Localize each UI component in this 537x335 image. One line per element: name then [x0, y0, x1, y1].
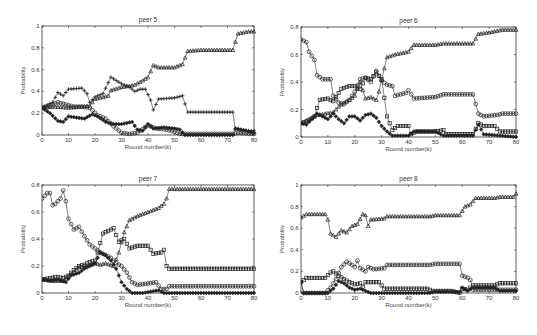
x-tick-label: 60 [459, 139, 466, 145]
x-tick-label: 30 [378, 139, 385, 145]
x-tick-label: 80 [251, 295, 258, 301]
x-tick-label: 20 [351, 295, 358, 301]
y-tick-label: 0.2 [290, 268, 299, 274]
x-tick-label: 50 [432, 139, 439, 145]
y-axis-label: Probability [279, 225, 285, 253]
x-tick-label: 10 [65, 137, 72, 143]
y-tick-label: 0.6 [31, 209, 40, 215]
x-tick-label: 80 [513, 139, 520, 145]
y-tick-label: 0.8 [290, 24, 299, 30]
x-tick-label: 10 [325, 295, 332, 301]
axes-box [301, 185, 516, 293]
y-tick-label: 1 [295, 182, 299, 188]
subplot-title: peer 5 [139, 16, 158, 24]
x-tick-label: 20 [351, 139, 358, 145]
figure: 0102030405060708000.20.40.60.81peer 5Rou… [0, 0, 537, 335]
x-tick-label: 60 [198, 295, 205, 301]
y-tick-label: 0.2 [31, 110, 40, 116]
y-axis-label: Probability [279, 68, 285, 96]
x-axis-label: Round number(k) [385, 146, 432, 152]
y-axis-label: Probability [20, 66, 26, 94]
y-tick-label: 0.6 [290, 52, 299, 58]
subplot-title: peer 6 [399, 17, 418, 25]
x-tick-label: 30 [118, 295, 125, 301]
x-tick-label: 70 [224, 137, 231, 143]
x-tick-label: 60 [198, 137, 205, 143]
y-axis-label: Probability [20, 225, 26, 253]
x-tick-label: 80 [513, 295, 520, 301]
x-tick-label: 0 [40, 295, 44, 301]
y-tick-label: 0.8 [31, 182, 40, 188]
subplot-peer-7: 0102030405060708000.20.40.60.8peer 7Roun… [20, 175, 258, 308]
x-tick-label: 40 [405, 139, 412, 145]
x-tick-label: 30 [118, 137, 125, 143]
subplot-peer-6: 0102030405060708000.20.40.60.8peer 6Roun… [279, 17, 520, 152]
x-tick-label: 0 [299, 139, 303, 145]
y-tick-label: 0.2 [31, 263, 40, 269]
x-tick-label: 70 [224, 295, 231, 301]
x-tick-label: 0 [299, 295, 303, 301]
axes-box [301, 27, 516, 137]
y-tick-label: 0.4 [290, 79, 299, 85]
x-axis-label: Round number(k) [385, 302, 432, 308]
chart-canvas: 0102030405060708000.20.40.60.81peer 5Rou… [0, 0, 537, 335]
x-tick-label: 70 [486, 295, 493, 301]
x-tick-label: 60 [459, 295, 466, 301]
x-tick-label: 40 [145, 295, 152, 301]
y-tick-label: 0.6 [290, 225, 299, 231]
x-tick-label: 30 [378, 295, 385, 301]
y-tick-label: 1 [36, 23, 40, 29]
subplot-title: peer 8 [399, 175, 418, 183]
x-tick-label: 50 [171, 295, 178, 301]
x-tick-label: 20 [92, 137, 99, 143]
y-tick-label: 0.8 [290, 204, 299, 210]
x-tick-label: 50 [432, 295, 439, 301]
y-tick-label: 0.6 [31, 67, 40, 73]
y-tick-label: 0.2 [290, 107, 299, 113]
subplot-peer-5: 0102030405060708000.20.40.60.81peer 5Rou… [20, 16, 258, 150]
x-tick-label: 20 [92, 295, 99, 301]
subplot-peer-8: 0102030405060708000.20.40.60.81peer 8Rou… [279, 175, 520, 308]
y-tick-label: 0.4 [290, 247, 299, 253]
y-tick-label: 0.4 [31, 88, 40, 94]
y-tick-label: 0.8 [31, 45, 40, 51]
x-tick-label: 40 [145, 137, 152, 143]
x-tick-label: 70 [486, 139, 493, 145]
x-axis-label: Round number(k) [125, 144, 172, 150]
x-tick-label: 10 [325, 139, 332, 145]
subplot-title: peer 7 [139, 175, 158, 183]
x-tick-label: 0 [40, 137, 44, 143]
x-tick-label: 40 [405, 295, 412, 301]
y-tick-label: 0.4 [31, 236, 40, 242]
x-tick-label: 50 [171, 137, 178, 143]
x-tick-label: 10 [65, 295, 72, 301]
x-axis-label: Round number(k) [125, 302, 172, 308]
x-tick-label: 80 [251, 137, 258, 143]
